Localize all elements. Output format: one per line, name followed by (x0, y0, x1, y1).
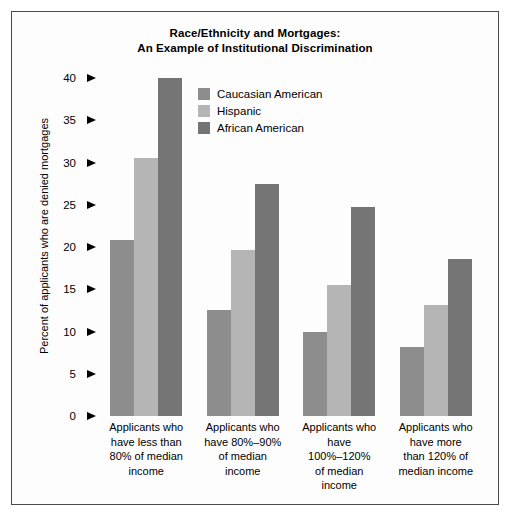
x-axis-label: Applicants whohave less than80% of media… (93, 420, 200, 478)
y-tick-label: 35 (63, 113, 76, 127)
chart-title-line-2: An Example of Institutional Discriminati… (12, 41, 498, 56)
legend-label: Hispanic (217, 105, 261, 117)
chart-title-line-1: Race/Ethnicity and Mortgages: (12, 26, 498, 41)
x-axis-label-line: 80% of median (93, 449, 200, 464)
y-tick-15: 15 (30, 282, 98, 296)
y-tick-label: 0 (70, 409, 76, 423)
y-tick-40: 40 (30, 71, 98, 85)
y-tick-label: 20 (63, 240, 76, 254)
y-tick-30: 30 (30, 156, 98, 170)
x-axis-label-line: than 120% of (383, 449, 490, 464)
y-tick-20: 20 (30, 240, 98, 254)
x-axis-label-line: Applicants who (93, 420, 200, 435)
bar (255, 184, 279, 416)
y-tick-arrow-icon (87, 412, 96, 420)
x-axis-label-line: 100%–120% (286, 449, 393, 464)
x-axis-label-line: income (93, 464, 200, 479)
y-tick-arrow-icon (87, 285, 96, 293)
x-axis-label: Applicants whohave100%–120%of medianinco… (286, 420, 393, 493)
bar (400, 347, 424, 416)
legend-item: Caucasian American (198, 86, 322, 102)
chart-legend: Caucasian AmericanHispanicAfrican Americ… (198, 86, 322, 137)
y-tick-label: 5 (70, 367, 76, 381)
y-tick-arrow-icon (87, 328, 96, 336)
legend-swatch-icon (198, 88, 210, 100)
bar (207, 310, 231, 416)
y-tick-label: 30 (63, 156, 76, 170)
legend-swatch-icon (198, 122, 210, 134)
y-tick-label: 15 (63, 282, 76, 296)
x-axis-label-line: of median (190, 449, 297, 464)
y-tick-label: 10 (63, 325, 76, 339)
y-tick-arrow-icon (87, 370, 96, 378)
x-axis-label: Applicants whohave morethan 120% ofmedia… (383, 420, 490, 478)
legend-item: African American (198, 120, 322, 136)
x-axis-label-line: Applicants who (286, 420, 393, 435)
x-axis-label-line: Applicants who (383, 420, 490, 435)
y-tick-arrow-icon (87, 116, 96, 124)
x-axis-label-line: income (286, 478, 393, 493)
y-tick-0: 0 (30, 409, 98, 423)
bar-group (98, 78, 195, 416)
chart-title: Race/Ethnicity and Mortgages: An Example… (12, 26, 498, 56)
bar (134, 158, 158, 416)
x-axis-label-line: have less than (93, 435, 200, 450)
y-tick-label: 25 (63, 198, 76, 212)
y-tick-label: 40 (63, 71, 76, 85)
bar (303, 332, 327, 417)
y-tick-10: 10 (30, 325, 98, 339)
bar (448, 259, 472, 416)
bar-group (388, 78, 485, 416)
legend-label: African American (217, 122, 304, 134)
x-axis-label-line: of median (286, 464, 393, 479)
chart-figure: Race/Ethnicity and Mortgages: An Example… (11, 11, 499, 505)
bar (424, 305, 448, 416)
x-axis-labels: Applicants whohave less than80% of media… (98, 420, 488, 500)
legend-swatch-icon (198, 105, 210, 117)
y-axis-title: Percent of applicants who are denied mor… (38, 86, 50, 386)
x-axis-label-line: median income (383, 464, 490, 479)
y-tick-arrow-icon (87, 74, 96, 82)
bar (110, 240, 134, 416)
y-tick-35: 35 (30, 113, 98, 127)
x-axis-label-line: income (190, 464, 297, 479)
bar (327, 285, 351, 416)
legend-item: Hispanic (198, 103, 322, 119)
x-axis-label: Applicants whohave 80%–90%of medianincom… (190, 420, 297, 478)
legend-label: Caucasian American (217, 88, 322, 100)
y-tick-arrow-icon (87, 201, 96, 209)
bar (231, 250, 255, 416)
x-axis-label-line: have 80%–90% (190, 435, 297, 450)
y-tick-5: 5 (30, 367, 98, 381)
x-axis-label-line: have (286, 435, 393, 450)
x-axis-label-line: have more (383, 435, 490, 450)
x-axis-label-line: Applicants who (190, 420, 297, 435)
bar (158, 78, 182, 416)
bar (351, 207, 375, 416)
y-tick-arrow-icon (87, 243, 96, 251)
y-tick-25: 25 (30, 198, 98, 212)
y-tick-arrow-icon (87, 159, 96, 167)
